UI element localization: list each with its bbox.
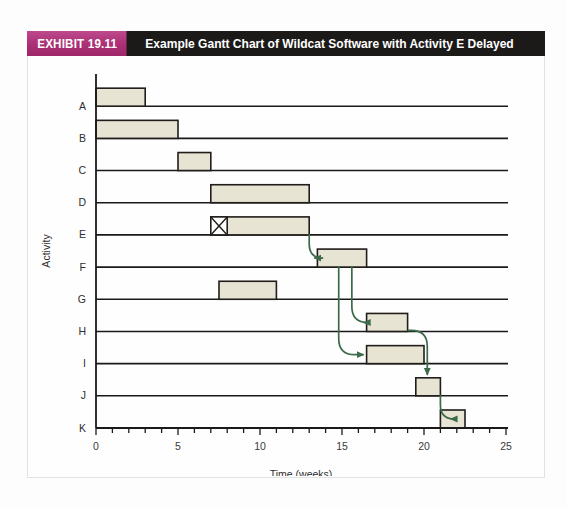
gantt-bar-b	[96, 120, 178, 138]
exhibit-title-bar: EXHIBIT 19.11 Example Gantt Chart of Wil…	[27, 31, 545, 56]
gantt-bar-j	[416, 378, 441, 396]
gantt-bar-a	[96, 88, 145, 106]
x-tick-label: 25	[500, 440, 512, 452]
x-tick-label: 0	[93, 440, 99, 452]
activity-label-b: B	[79, 132, 86, 144]
exhibit-number-tag: EXHIBIT 19.11	[27, 31, 126, 56]
gantt-bar-i	[367, 346, 424, 364]
chart-frame: 0510152025ABCDEFGHIJKTime (weeks)Activit…	[27, 56, 545, 478]
gantt-bar-h	[367, 313, 408, 331]
activity-label-i: I	[83, 357, 86, 369]
x-tick-label: 10	[254, 440, 266, 452]
gantt-bar-c	[178, 153, 211, 171]
activity-label-h: H	[78, 325, 86, 337]
activity-label-j: J	[81, 389, 86, 401]
delay-marker-x-box	[211, 217, 227, 235]
gantt-bar-f	[317, 249, 366, 267]
activity-label-g: G	[78, 293, 86, 305]
exhibit-title-text: Example Gantt Chart of Wildcat Software …	[134, 31, 514, 56]
activity-label-e: E	[79, 228, 86, 240]
x-tick-label: 15	[336, 440, 348, 452]
activity-label-c: C	[78, 164, 86, 176]
x-tick-label: 5	[175, 440, 181, 452]
activity-label-k: K	[79, 422, 86, 434]
y-axis-title: Activity	[40, 234, 52, 268]
dependency-arrow-f-to-h	[352, 266, 368, 322]
activity-label-f: F	[80, 261, 86, 273]
gantt-bar-g	[219, 281, 276, 299]
gridlines-group	[96, 106, 508, 428]
activity-label-a: A	[79, 100, 86, 112]
exhibit-figure: EXHIBIT 19.11 Example Gantt Chart of Wil…	[0, 0, 567, 509]
gantt-bar-d	[211, 185, 309, 203]
activity-label-d: D	[78, 196, 86, 208]
x-axis-title: Time (weeks)	[270, 468, 333, 476]
gantt-chart-plot: 0510152025ABCDEFGHIJKTime (weeks)Activit…	[28, 56, 544, 476]
x-tick-label: 20	[418, 440, 430, 452]
